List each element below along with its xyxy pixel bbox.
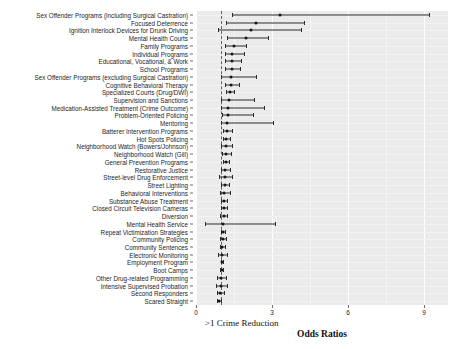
y-axis-tick-mark: [190, 239, 193, 240]
point-estimate: [230, 68, 233, 71]
ci-cap-lower: [205, 222, 206, 226]
y-axis-tick-mark: [190, 277, 193, 278]
ci-cap-upper: [227, 206, 228, 210]
x-axis-tick-label: 0: [194, 309, 198, 316]
point-estimate: [227, 106, 230, 109]
point-estimate: [222, 230, 225, 233]
y-axis-tick-label: Ignition Interlock Devices for Drunk Dri…: [69, 27, 188, 34]
y-axis-tick-label: Focused Deterrence: [131, 19, 188, 26]
y-axis-tick-mark: [190, 146, 193, 147]
ci-cap-lower: [226, 90, 227, 94]
point-estimate: [254, 21, 257, 24]
y-axis-tick-mark: [190, 254, 193, 255]
y-axis-tick-mark: [190, 45, 193, 46]
ci-cap-lower: [225, 44, 226, 48]
forest-row: [196, 297, 448, 305]
point-estimate: [228, 91, 231, 94]
y-axis-tick-label: General Prevention Programs: [105, 158, 188, 165]
ci-cap-upper: [225, 245, 226, 249]
y-axis-tick-label: Cognitive Behavioral Therapy: [106, 81, 189, 88]
point-estimate: [220, 261, 223, 264]
y-axis-tick-label: Diversion: [162, 213, 188, 220]
y-axis-tick-mark: [190, 30, 193, 31]
point-estimate: [245, 37, 248, 40]
point-estimate: [223, 184, 226, 187]
ci-cap-upper: [230, 191, 231, 195]
point-estimate: [225, 137, 228, 140]
y-axis-tick-mark: [190, 84, 193, 85]
ci-cap-lower: [222, 113, 223, 117]
x-axis-tick-label: 3: [270, 309, 274, 316]
y-axis-tick-mark: [190, 138, 193, 139]
y-axis-tick-mark: [190, 169, 193, 170]
ci-cap-upper: [224, 291, 225, 295]
y-axis-tick-label: Street Lighting: [147, 182, 188, 189]
y-axis-tick-mark: [190, 231, 193, 232]
ci-cap-lower: [221, 144, 222, 148]
ci-cap-upper: [429, 13, 430, 17]
y-axis-tick-label: Problem-Oriented Policing: [115, 112, 189, 119]
ci-cap-lower: [225, 59, 226, 63]
y-axis-tick-label: Closed Circuit Television Cameras: [92, 205, 188, 212]
ci-cap-lower: [225, 83, 226, 87]
y-axis-tick-mark: [190, 99, 193, 100]
ci-cap-lower: [232, 13, 233, 17]
point-estimate: [225, 145, 228, 148]
y-axis-tick-label: Individual Programs: [132, 50, 188, 57]
y-axis-tick-label: Scared Straight: [145, 298, 188, 305]
y-axis-tick-mark: [190, 301, 193, 302]
ci-cap-upper: [227, 199, 228, 203]
y-axis-tick-mark: [190, 69, 193, 70]
y-axis-tick-mark: [190, 285, 193, 286]
ci-cap-lower: [218, 253, 219, 257]
ci-cap-upper: [232, 144, 233, 148]
y-axis-tick-mark: [190, 208, 193, 209]
y-axis-tick-label: Educational, Vocational, & Work: [99, 58, 189, 65]
point-estimate: [227, 98, 230, 101]
y-axis-tick-mark: [190, 115, 193, 116]
forest-plot-figure: Sex Offender Programs (including Surgica…: [0, 0, 454, 349]
y-axis-tick-label: Intensive Supervised Probation: [101, 282, 188, 289]
point-estimate: [223, 176, 226, 179]
point-estimate: [250, 29, 253, 32]
ci-cap-upper: [264, 106, 265, 110]
ci-cap-upper: [244, 52, 245, 56]
ci-cap-upper: [221, 299, 222, 303]
y-axis-tick-mark: [190, 61, 193, 62]
y-axis-tick-label: Community Policing: [132, 236, 188, 243]
ci-cap-lower: [226, 21, 227, 25]
point-estimate: [230, 60, 233, 63]
plot-panel: [196, 11, 448, 305]
point-estimate: [233, 44, 236, 47]
y-axis-tick-mark: [190, 185, 193, 186]
ci-cap-lower: [222, 152, 223, 156]
y-axis-tick-mark: [190, 216, 193, 217]
ci-cap-lower: [216, 284, 217, 288]
y-axis-tick-label: Restorative Justice: [135, 166, 188, 173]
ci-cap-lower: [221, 98, 222, 102]
point-estimate: [226, 114, 229, 117]
point-estimate: [220, 276, 223, 279]
ci-cap-lower: [219, 175, 220, 179]
ci-cap-upper: [273, 121, 274, 125]
y-axis-tick-mark: [190, 53, 193, 54]
confidence-interval-bar: [205, 223, 275, 224]
y-axis-tick-mark: [190, 200, 193, 201]
ci-cap-upper: [304, 21, 305, 25]
y-axis-tick-label: Batterer Intervention Programs: [102, 127, 188, 134]
ci-cap-lower: [221, 75, 222, 79]
ci-cap-upper: [231, 152, 232, 156]
y-axis-tick-label: Electronic Monitoring: [129, 251, 188, 258]
point-estimate: [224, 168, 227, 171]
y-axis-tick-mark: [190, 262, 193, 263]
y-axis-tick-label: Family Programs: [140, 42, 188, 49]
y-axis-tick-label: Street-level Drug Enforcement: [103, 174, 188, 181]
x-axis-tick-mark: [272, 305, 273, 308]
x-axis-tick-label: 6: [346, 309, 350, 316]
ci-cap-upper: [268, 36, 269, 40]
ci-cap-upper: [227, 284, 228, 288]
point-estimate: [222, 222, 225, 225]
y-axis-tick-label: Other Drug-related Programming: [96, 274, 188, 281]
ci-cap-upper: [234, 90, 235, 94]
point-estimate: [223, 199, 226, 202]
